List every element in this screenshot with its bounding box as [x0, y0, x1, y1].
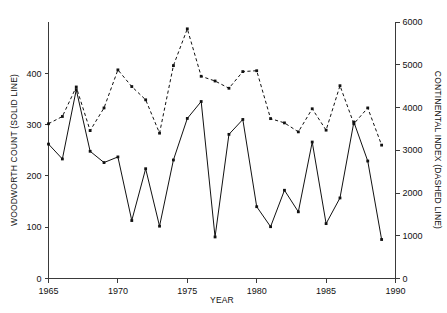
data-point-marker	[269, 225, 272, 228]
y-axis-right-tick-label: 5000	[403, 60, 423, 70]
data-point-marker	[228, 133, 231, 136]
chart-canvas: 0100200300400 0100020003000400050006000 …	[0, 0, 447, 313]
data-point-marker	[269, 117, 272, 120]
y-axis-right-tick-label: 1000	[403, 231, 423, 241]
data-point-marker	[200, 75, 203, 78]
y-axis-left-ticks: 0100200300400	[26, 69, 48, 284]
y-axis-left-tick-label: 300	[26, 120, 41, 130]
series-continental-index	[47, 27, 383, 146]
data-point-marker	[117, 156, 120, 159]
data-point-marker	[130, 219, 133, 222]
x-axis-tick-label: 1965	[38, 286, 58, 296]
data-point-marker	[241, 118, 244, 121]
data-point-marker	[89, 150, 92, 153]
y-axis-right-ticks: 0100020003000400050006000	[396, 17, 423, 284]
y-axis-left-tick-label: 200	[26, 171, 41, 181]
axis-group	[49, 22, 396, 279]
data-point-marker	[130, 85, 133, 88]
y-axis-right-title: CONTINENTAL INDEX (DASHED LINE)	[433, 71, 443, 229]
data-point-marker	[311, 107, 314, 110]
data-point-marker	[214, 80, 217, 83]
data-point-marker	[325, 129, 328, 132]
data-point-marker	[89, 129, 92, 132]
x-axis-ticks: 196519701975198019851990	[38, 279, 405, 296]
data-point-marker	[380, 238, 383, 241]
continental-index-markers	[47, 27, 383, 146]
continental-index-line	[49, 29, 382, 145]
x-axis-tick-label: 1990	[385, 286, 405, 296]
data-point-marker	[297, 130, 300, 133]
y-axis-left-tick-label: 0	[36, 274, 41, 284]
woodworth-count-line	[49, 90, 382, 240]
data-point-marker	[117, 68, 120, 71]
data-point-marker	[75, 88, 78, 91]
data-point-marker	[297, 210, 300, 213]
data-point-marker	[186, 27, 189, 30]
data-point-marker	[339, 84, 342, 87]
data-point-marker	[228, 87, 231, 90]
data-point-marker	[75, 86, 78, 89]
data-point-marker	[103, 161, 106, 164]
y-axis-left-title: WOODWORTH COUNT (SOLID LINE)	[9, 74, 19, 226]
data-point-marker	[144, 98, 147, 101]
y-axis-left-tick-label: 400	[26, 69, 41, 79]
data-point-marker	[186, 117, 189, 120]
data-point-marker	[61, 158, 64, 161]
data-point-marker	[172, 159, 175, 162]
series-woodworth-count	[47, 88, 383, 241]
chart-figure: 0100200300400 0100020003000400050006000 …	[0, 0, 447, 313]
data-point-marker	[47, 143, 50, 146]
y-axis-right-tick-label: 2000	[403, 188, 423, 198]
woodworth-count-markers	[47, 88, 383, 241]
data-point-marker	[144, 167, 147, 170]
data-point-marker	[380, 144, 383, 147]
data-point-marker	[103, 107, 106, 110]
y-axis-right-tick-label: 3000	[403, 145, 423, 155]
data-point-marker	[47, 122, 50, 125]
x-axis-title: YEAR	[210, 295, 234, 305]
y-axis-right-tick-label: 0	[403, 274, 408, 284]
data-point-marker	[255, 205, 258, 208]
data-point-marker	[366, 160, 369, 163]
x-axis-tick-label: 1980	[247, 286, 267, 296]
y-axis-right-tick-label: 4000	[403, 103, 423, 113]
x-axis-tick-label: 1970	[108, 286, 128, 296]
data-point-marker	[352, 121, 355, 124]
y-axis-left-tick-label: 100	[26, 222, 41, 232]
data-point-marker	[255, 69, 258, 72]
data-point-marker	[158, 132, 161, 135]
data-point-marker	[214, 236, 217, 239]
x-axis-tick-label: 1975	[177, 286, 197, 296]
data-point-marker	[172, 64, 175, 67]
x-axis-tick-label: 1985	[316, 286, 336, 296]
data-point-marker	[61, 115, 64, 118]
y-axis-right-tick-label: 6000	[403, 17, 423, 27]
data-point-marker	[158, 225, 161, 228]
data-point-marker	[283, 121, 286, 124]
data-point-marker	[241, 70, 244, 73]
data-point-marker	[200, 100, 203, 103]
data-point-marker	[366, 107, 369, 110]
data-point-marker	[339, 197, 342, 200]
data-point-marker	[311, 141, 314, 144]
data-point-marker	[283, 189, 286, 192]
data-point-marker	[325, 222, 328, 225]
